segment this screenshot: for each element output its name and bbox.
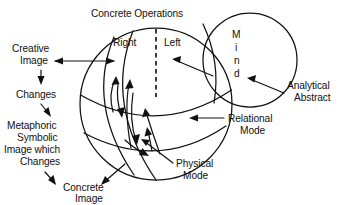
creative-image-arrowhead-left	[54, 58, 63, 65]
label-left-hemisphere: Left	[164, 37, 181, 48]
mind-letter-i: i	[235, 42, 237, 53]
creative-image-arrowhead-right	[106, 58, 115, 65]
label-concrete-image-line2: Image	[75, 193, 103, 204]
internal-flow-arrow-diag-1-head	[139, 148, 149, 156]
page-title: Concrete Operations	[91, 8, 183, 19]
label-metaphoric-line1: Metaphoric	[7, 120, 56, 131]
concept-diagram-svg: Concrete Operations Right Left M i n d C…	[0, 0, 343, 205]
label-physical-mode-line1: Physical	[176, 158, 213, 169]
label-metaphoric-line4: Changes	[20, 156, 60, 167]
mind-to-left-shaft	[175, 60, 213, 76]
label-changes: Changes	[16, 89, 56, 100]
label-analytical-abstract-line2: Abstract	[294, 92, 331, 103]
internal-flow-arrow-up-2-shaft	[127, 84, 131, 148]
internal-flow-arrow-up-2-head	[125, 79, 134, 89]
diagram-canvas: Concrete Operations Right Left M i n d C…	[0, 0, 343, 205]
label-right-hemisphere: Right	[113, 37, 137, 48]
label-relational-mode-line1: Relational	[228, 113, 272, 124]
mind-to-left-arrowhead	[172, 56, 181, 63]
analytical-abstract-leader-shaft	[250, 79, 284, 93]
label-relational-mode-line2: Mode	[240, 125, 266, 136]
mind-letter-n: n	[234, 55, 240, 66]
label-metaphoric-line3: Image which	[4, 144, 60, 155]
label-creative-image-line1: Creative	[12, 43, 50, 54]
label-concrete-image-line1: Concrete	[63, 182, 104, 193]
label-physical-mode-line2: Mode	[183, 170, 209, 181]
label-metaphoric-line2: Symbolic	[17, 132, 58, 143]
analytical-abstract-arrowhead	[247, 75, 256, 83]
creative-to-changes-arrowhead	[38, 76, 45, 85]
longitude-arc-inner	[123, 31, 156, 180]
label-creative-image-line2: Image	[20, 55, 48, 66]
relational-mode-arrowhead	[189, 115, 198, 122]
mind-letter-d: d	[234, 68, 240, 79]
label-analytical-abstract-line1: Analytical	[287, 80, 330, 91]
mind-letter-m: M	[232, 29, 240, 40]
physical-mode-leader-shaft	[144, 141, 173, 163]
